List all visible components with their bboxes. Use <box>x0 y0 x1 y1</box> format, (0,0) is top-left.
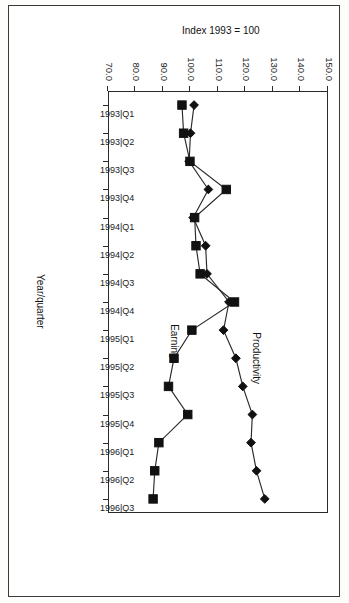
chart-plot <box>108 91 328 513</box>
x-axis-tick-label: 1994|Q1 <box>100 222 134 232</box>
x-axis-tick-label: 1996|Q1 <box>100 447 134 457</box>
y-axis-tick-label: 150.0 <box>324 39 335 81</box>
data-point-productivity-9 <box>231 354 240 363</box>
y-axis-tick-label: 140.0 <box>297 39 308 81</box>
x-axis-tick-mark <box>103 443 108 444</box>
data-point-productivity-11 <box>248 410 257 419</box>
x-axis-tick-mark <box>103 189 108 190</box>
data-point-earnings-0 <box>178 101 186 109</box>
y-axis-title: Index 1993 = 100 <box>182 25 260 36</box>
y-axis-tick-label: 90.0 <box>159 39 170 81</box>
data-point-productivity-5 <box>201 241 210 250</box>
x-axis-tick-label: 1993|Q4 <box>100 193 134 203</box>
data-point-earnings-10 <box>164 382 172 390</box>
x-axis-tick-mark <box>103 386 108 387</box>
x-axis-tick-mark <box>103 471 108 472</box>
data-point-productivity-14 <box>260 495 269 504</box>
x-axis-tick-label: 1996|Q3 <box>100 503 134 513</box>
y-axis-tick-label: 70.0 <box>104 39 115 81</box>
data-point-earnings-5 <box>192 242 200 250</box>
x-axis-tick-mark <box>103 302 108 303</box>
y-axis-tick-mark <box>300 86 301 91</box>
rotated-figure-wrapper: 150.0140.0130.0120.0110.0100.090.080.070… <box>8 5 340 597</box>
data-point-productivity-0 <box>190 101 199 110</box>
data-point-earnings-6 <box>196 270 204 278</box>
y-axis-tick-label: 130.0 <box>269 39 280 81</box>
x-axis-tick-mark <box>103 415 108 416</box>
data-point-productivity-12 <box>247 438 256 447</box>
data-point-productivity-10 <box>238 382 247 391</box>
data-point-earnings-2 <box>186 157 194 165</box>
x-axis-tick-label: 1994|Q4 <box>100 306 134 316</box>
data-point-productivity-8 <box>219 326 228 335</box>
x-axis-tick-mark <box>103 330 108 331</box>
data-point-earnings-4 <box>190 213 198 221</box>
x-axis-tick-label: 1993|Q3 <box>100 165 134 175</box>
y-axis-tick-mark <box>245 86 246 91</box>
x-axis-tick-mark <box>103 246 108 247</box>
y-axis-tick-mark <box>107 86 108 91</box>
series-label-productivity: Productivity <box>251 332 262 384</box>
data-point-earnings-14 <box>149 495 157 503</box>
x-axis-tick-label: 1995|Q2 <box>100 362 134 372</box>
data-point-earnings-7 <box>230 298 238 306</box>
y-axis-tick-label: 80.0 <box>132 39 143 81</box>
y-axis-tick-mark <box>272 86 273 91</box>
x-axis-tick-label: 1993|Q1 <box>100 109 134 119</box>
y-axis-tick-mark <box>162 86 163 91</box>
y-axis-tick-mark <box>135 86 136 91</box>
series-label-earnings: Earnings <box>169 324 180 363</box>
x-axis-tick-label: 1995|Q4 <box>100 419 134 429</box>
chart-page: 150.0140.0130.0120.0110.0100.090.080.070… <box>0 0 349 603</box>
x-axis-tick-label: 1994|Q3 <box>100 278 134 288</box>
y-axis-tick-mark <box>327 86 328 91</box>
x-axis-tick-label: 1995|Q1 <box>100 334 134 344</box>
y-axis-tick-mark <box>190 86 191 91</box>
data-point-productivity-13 <box>252 466 261 475</box>
x-axis-tick-mark <box>103 358 108 359</box>
data-point-earnings-1 <box>179 129 187 137</box>
data-point-earnings-8 <box>188 326 196 334</box>
x-axis-tick-mark <box>103 105 108 106</box>
x-axis-tick-label: 1993|Q2 <box>100 137 134 147</box>
y-axis-tick-label: 120.0 <box>242 39 253 81</box>
data-point-earnings-12 <box>155 438 163 446</box>
x-axis-tick-label: 1994|Q2 <box>100 250 134 260</box>
data-point-earnings-13 <box>151 467 159 475</box>
scan-page-border: 150.0140.0130.0120.0110.0100.090.080.070… <box>8 5 340 597</box>
x-axis-tick-label: 1995|Q3 <box>100 390 134 400</box>
chart-figure: 150.0140.0130.0120.0110.0100.090.080.070… <box>8 5 340 597</box>
data-point-earnings-11 <box>184 410 192 418</box>
x-axis-title: Year/quarter <box>35 274 46 329</box>
data-point-productivity-3 <box>204 185 213 194</box>
x-axis-tick-mark <box>103 218 108 219</box>
x-axis-tick-mark <box>103 499 108 500</box>
y-axis-tick-mark <box>217 86 218 91</box>
x-axis-tick-mark <box>103 133 108 134</box>
x-axis-tick-label: 1996|Q2 <box>100 475 134 485</box>
y-axis-tick-label: 110.0 <box>214 39 225 81</box>
y-axis-tick-label: 100.0 <box>187 39 198 81</box>
x-axis-tick-mark <box>103 161 108 162</box>
data-point-earnings-3 <box>222 185 230 193</box>
x-axis-tick-mark <box>103 274 108 275</box>
